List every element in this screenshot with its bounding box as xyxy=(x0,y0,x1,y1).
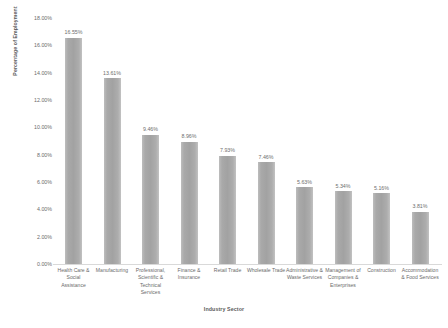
x-axis-title: Industry Sector xyxy=(0,306,448,312)
bar-slot: 8.96% xyxy=(171,18,208,264)
x-axis-category-label: Health Care & Social Assistance xyxy=(54,267,93,289)
y-axis-tick-label: 14.00% xyxy=(22,70,52,76)
bar-value-label: 16.55% xyxy=(55,29,92,35)
bar[interactable] xyxy=(104,78,121,264)
y-axis-tick-label: 0.00% xyxy=(22,261,52,267)
bar[interactable] xyxy=(142,135,159,264)
bar-value-label: 7.46% xyxy=(248,154,285,160)
bar-slot: 9.46% xyxy=(132,18,169,264)
y-axis-tick-labels: 18.00%16.00%14.00%12.00%10.00%8.00%6.00%… xyxy=(22,0,52,328)
x-axis-category-label: Professional, Scientific & Technical Ser… xyxy=(131,267,170,296)
bar[interactable] xyxy=(181,142,198,264)
bar[interactable] xyxy=(373,193,390,264)
x-axis-category-label: Accommodation & Food Services xyxy=(401,267,440,282)
x-axis-category-label: Construction xyxy=(362,267,401,274)
bar-slot: 16.55% xyxy=(55,18,92,264)
bar[interactable] xyxy=(65,38,82,264)
bar[interactable] xyxy=(258,162,275,264)
x-axis-category-label: Management of Companies & Enterprises xyxy=(324,267,363,289)
y-axis-tick-label: 16.00% xyxy=(22,42,52,48)
x-axis-category-label: Finance & Insurance xyxy=(170,267,209,282)
y-axis-tick-label: 4.00% xyxy=(22,206,52,212)
x-axis-category-label: Wholesale Trade xyxy=(247,267,286,274)
bar-value-label: 8.96% xyxy=(171,133,208,139)
bar-slot: 7.93% xyxy=(209,18,246,264)
y-axis-tick-label: 18.00% xyxy=(22,15,52,21)
y-axis-tick-label: 8.00% xyxy=(22,152,52,158)
x-axis-category-label: Retail Trade xyxy=(208,267,247,274)
bar-value-label: 3.81% xyxy=(402,203,439,209)
bar-slot: 5.34% xyxy=(325,18,362,264)
bar-slot: 3.81% xyxy=(402,18,439,264)
y-axis-tick-label: 10.00% xyxy=(22,124,52,130)
bar[interactable] xyxy=(219,156,236,264)
bar[interactable] xyxy=(412,212,429,264)
bar-value-label: 5.34% xyxy=(325,183,362,189)
x-axis-category-label: Administrative & Waste Services xyxy=(285,267,324,282)
x-axis-line xyxy=(53,264,442,265)
bar-slot: 7.46% xyxy=(248,18,285,264)
y-axis-tick-label: 2.00% xyxy=(22,234,52,240)
plot-area: 16.55%13.61%9.46%8.96%7.93%7.46%5.63%5.3… xyxy=(55,18,440,264)
bar-value-label: 13.61% xyxy=(94,70,131,76)
y-axis-tick-label: 6.00% xyxy=(22,179,52,185)
x-axis-category-label: Manufacturing xyxy=(93,267,132,274)
bar-slot: 13.61% xyxy=(94,18,131,264)
bar-value-label: 7.93% xyxy=(209,147,246,153)
bar-slot: 5.63% xyxy=(286,18,323,264)
bar-slot: 5.16% xyxy=(363,18,400,264)
y-axis-tick-label: 12.00% xyxy=(22,97,52,103)
bar-value-label: 5.63% xyxy=(286,179,323,185)
bar[interactable] xyxy=(335,191,352,264)
bar-value-label: 5.16% xyxy=(363,185,400,191)
bar[interactable] xyxy=(296,187,313,264)
bar-chart: Percentage of Employment 18.00%16.00%14.… xyxy=(0,0,448,328)
bar-value-label: 9.46% xyxy=(132,126,169,132)
y-axis-title: Percentage of Employment xyxy=(12,0,18,106)
